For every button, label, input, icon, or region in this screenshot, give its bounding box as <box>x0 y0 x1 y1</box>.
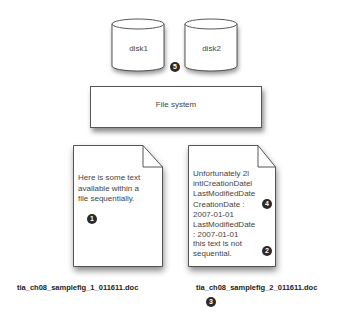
document-1-filename: tia_ch08_samplefig_1_011611.doc <box>17 283 138 292</box>
disk2-cylinder: disk2 <box>184 18 239 72</box>
callout-4: 4 <box>262 199 272 209</box>
callout-5: 5 <box>170 62 180 72</box>
disk2-label: disk2 <box>184 44 239 53</box>
document-2-text: Unfortunately 2l intlCreationDatel LastM… <box>193 169 255 240</box>
document-2-trailing-text: this text is not sequential. <box>193 239 242 258</box>
document-2-filename: tia_ch08_samplefig_2_011611.doc <box>196 283 317 292</box>
document-2: Unfortunately 2l intlCreationDatel LastM… <box>188 145 276 267</box>
file-system-box: File system <box>90 86 262 128</box>
callout-2: 2 <box>262 246 272 256</box>
callout-3: 3 <box>206 297 216 307</box>
document-1-text: Here is some text available within a fil… <box>78 173 140 205</box>
disk1-cylinder: disk1 <box>111 18 166 72</box>
file-system-label: File system <box>91 100 261 109</box>
document-1: Here is some text available within a fil… <box>73 145 163 267</box>
callout-1: 1 <box>87 214 97 224</box>
document-icon <box>73 145 163 267</box>
disk1-label: disk1 <box>111 44 166 53</box>
